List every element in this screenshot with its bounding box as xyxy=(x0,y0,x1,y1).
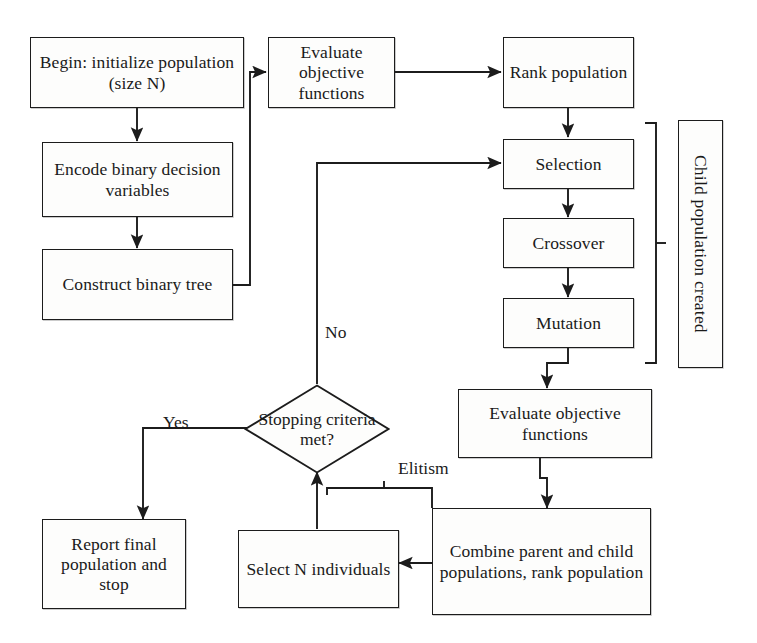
elitism-bracket xyxy=(327,481,432,508)
node-select-n-individuals[interactable]: Select N individuals xyxy=(238,530,399,608)
edge-label-elitism: Elitism xyxy=(398,458,449,479)
node-begin[interactable]: Begin: initialize population (size N) xyxy=(30,37,244,108)
edge-no-to-selection xyxy=(317,163,501,384)
node-combine-label: Combine parent and child populations, ra… xyxy=(433,541,650,582)
edge-label-no: No xyxy=(325,322,346,343)
node-combine-populations[interactable]: Combine parent and child populations, ra… xyxy=(432,508,651,615)
node-encode-label: Encode binary decision variables xyxy=(43,159,232,200)
node-mutation-label: Mutation xyxy=(532,313,605,333)
node-mutation[interactable]: Mutation xyxy=(503,298,634,348)
node-construct-label: Construct binary tree xyxy=(59,274,217,294)
edge-mutation-to-evaluate xyxy=(547,348,568,388)
node-crossover[interactable]: Crossover xyxy=(503,218,634,268)
child-population-bracket xyxy=(645,123,666,363)
node-select-n-label: Select N individuals xyxy=(243,559,395,579)
node-evaluate-top-label: Evaluate objective functions xyxy=(269,42,394,103)
node-child-population-created[interactable]: Child population created xyxy=(678,120,723,368)
node-report-label: Report final population and stop xyxy=(43,534,185,595)
node-rank-label: Rank population xyxy=(506,62,632,82)
edge-label-yes: Yes xyxy=(163,412,188,433)
node-selection-label: Selection xyxy=(531,154,605,174)
node-crossover-label: Crossover xyxy=(529,233,609,253)
node-evaluate-objective-functions-bottom[interactable]: Evaluate objective functions xyxy=(458,389,652,458)
flowchart-canvas: Begin: initialize population (size N) En… xyxy=(0,0,757,643)
node-report-final-population[interactable]: Report final population and stop xyxy=(42,519,186,609)
edge-evaluate-to-combine xyxy=(540,458,547,508)
node-stopping-criteria[interactable]: Stopping criteria met? xyxy=(244,384,390,474)
node-begin-label: Begin: initialize population (size N) xyxy=(31,52,243,93)
node-stopping-label: Stopping criteria met? xyxy=(244,409,390,450)
node-child-population-label: Child population created xyxy=(690,155,711,333)
node-evaluate-objective-functions-top[interactable]: Evaluate objective functions xyxy=(268,37,395,108)
node-evaluate-bottom-label: Evaluate objective functions xyxy=(459,403,651,444)
node-rank-population[interactable]: Rank population xyxy=(503,37,634,108)
node-encode[interactable]: Encode binary decision variables xyxy=(42,142,233,217)
node-selection[interactable]: Selection xyxy=(503,139,634,189)
node-construct-binary-tree[interactable]: Construct binary tree xyxy=(42,249,233,320)
